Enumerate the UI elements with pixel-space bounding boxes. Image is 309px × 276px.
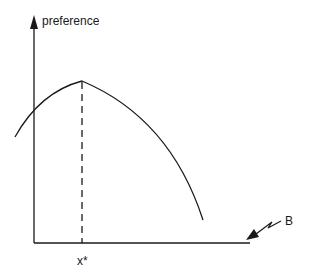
preference-diagram: preference x* B	[0, 0, 309, 276]
x-star-label: x*	[77, 254, 88, 268]
budget-zigzag-arrow-icon	[256, 221, 281, 234]
preference-curve	[15, 81, 203, 220]
budget-label: B	[285, 214, 293, 228]
y-axis-label: preference	[42, 14, 100, 28]
y-axis-arrowhead-icon	[30, 15, 38, 29]
budget-arrowhead-icon	[246, 229, 259, 240]
